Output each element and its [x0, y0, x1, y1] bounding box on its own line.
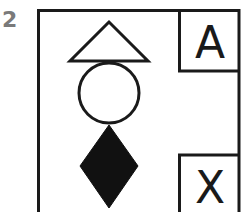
figure-diagram: A X — [0, 0, 243, 212]
diamond-shape — [80, 125, 138, 208]
label-a: A — [195, 17, 225, 68]
label-x: X — [195, 162, 225, 212]
circle-shape — [79, 63, 139, 123]
triangle-shape — [70, 22, 148, 61]
